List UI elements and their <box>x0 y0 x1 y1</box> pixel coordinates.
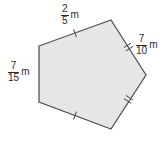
left-side-denominator: 15 <box>8 73 19 83</box>
top-side-denominator: 5 <box>62 16 68 26</box>
top-side-fraction: 2 5 <box>61 4 69 26</box>
right-side-length-label: 7 10 m <box>136 34 157 56</box>
left-side-unit: m <box>21 66 29 77</box>
top-side-numerator: 2 <box>61 4 69 14</box>
right-side-denominator: 10 <box>136 46 147 56</box>
right-side-fraction: 7 10 <box>136 34 147 56</box>
top-side-unit: m <box>71 9 79 20</box>
left-side-length-label: 7 15 m <box>8 61 29 83</box>
right-side-numerator: 7 <box>138 34 146 44</box>
top-side-length-label: 2 5 m <box>61 4 79 26</box>
pentagon-shape <box>39 20 146 129</box>
right-side-unit: m <box>149 39 157 50</box>
left-side-fraction: 7 15 <box>8 61 19 83</box>
left-side-numerator: 7 <box>10 61 18 71</box>
